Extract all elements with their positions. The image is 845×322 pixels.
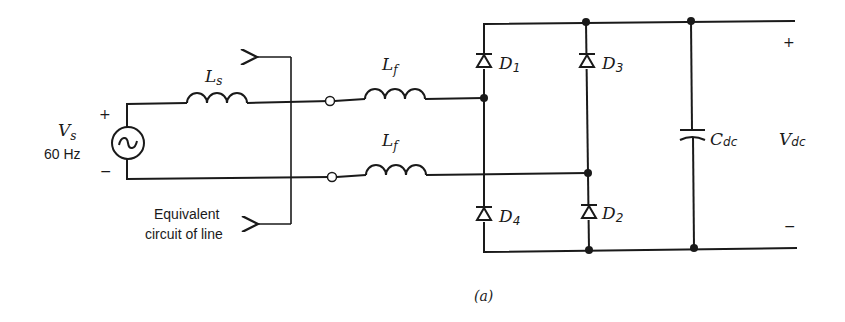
- junction-node: [584, 169, 592, 177]
- ac-source: + − Vs 60 Hz: [44, 103, 330, 179]
- junction-node: [690, 244, 698, 252]
- lf-upper-label: Lf: [381, 54, 400, 77]
- figure-caption: (a): [474, 288, 493, 304]
- bracket-label-line2: circuit of line: [145, 226, 223, 242]
- dc-output: + − Vdc: [779, 34, 806, 234]
- diode-d2: D2: [580, 203, 623, 225]
- dc-positive-rail: [484, 21, 795, 98]
- terminal-top: [326, 97, 335, 106]
- output-minus-sign: −: [784, 218, 796, 234]
- ls-label: Ls: [204, 66, 222, 88]
- svg-text:D4: D4: [498, 206, 520, 228]
- output-plus-sign: +: [783, 34, 795, 50]
- inductor-lf-icon: [366, 165, 426, 175]
- svg-text:D2: D2: [601, 203, 623, 225]
- source-minus-sign: −: [100, 163, 112, 179]
- junction-node: [687, 17, 695, 25]
- svg-text:D1: D1: [498, 53, 520, 75]
- source-top-wire: [127, 103, 187, 127]
- inductor-lf-icon: [365, 89, 425, 99]
- source-bottom-wire: [127, 159, 330, 179]
- ls-wire: [247, 101, 330, 103]
- lf-lower-label: Lf: [381, 130, 400, 153]
- filter-inductor-upper: Lf: [335, 54, 485, 101]
- cdc-label: Cdc: [710, 129, 738, 149]
- bracket-label-line1: Equivalent: [154, 206, 219, 222]
- vdc-label: Vdc: [779, 129, 806, 149]
- inductor-ls-icon: [187, 93, 247, 103]
- junction-node: [582, 18, 590, 26]
- source-label: Vs: [58, 120, 76, 143]
- source-plus-sign: +: [99, 106, 111, 122]
- diode-bridge: D1 D3 D4 D2: [475, 18, 797, 254]
- svg-text:D3: D3: [601, 53, 623, 75]
- line-inductor: Ls: [187, 66, 330, 103]
- junction-node: [585, 246, 593, 254]
- filter-inductor-lower: Lf: [337, 130, 589, 177]
- source-frequency: 60 Hz: [44, 146, 81, 162]
- sine-wave-icon: [119, 138, 137, 148]
- diode-d1: D1: [475, 53, 520, 75]
- diode-d4: D4: [475, 206, 520, 228]
- dc-negative-rail: [484, 98, 797, 252]
- rectifier-circuit-diagram: + − Vs 60 Hz Ls Equivalent circuit of li…: [0, 0, 845, 322]
- dc-capacitor: Cdc: [680, 17, 738, 252]
- source-subscript: s: [70, 129, 76, 143]
- terminal-bottom: [328, 173, 337, 182]
- diode-d3: D3: [578, 53, 623, 75]
- junction-node: [480, 94, 488, 102]
